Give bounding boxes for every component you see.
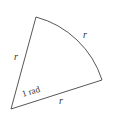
label-arc-length: r [83, 29, 87, 40]
label-angle: 1 rad [21, 84, 42, 99]
label-bottom-radius: r [59, 95, 63, 106]
label-left-radius: r [14, 51, 18, 62]
radian-sector-diagram: r r r 1 rad [0, 0, 113, 117]
